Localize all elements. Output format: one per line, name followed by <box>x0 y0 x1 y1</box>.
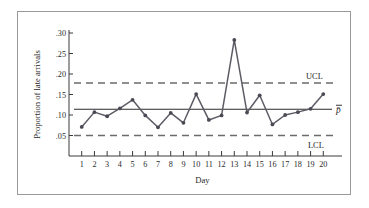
x-tick-label: 10 <box>192 160 200 169</box>
data-point <box>271 123 275 127</box>
data-point <box>207 118 211 122</box>
data-point <box>258 93 262 97</box>
x-tick-label: 17 <box>281 160 289 169</box>
control-chart: UCL p̄ LCL .05.10.15.20.25.30 1234567891… <box>18 12 350 194</box>
data-point <box>93 110 97 114</box>
x-tick-label: 19 <box>306 160 314 169</box>
limit-labels: UCL p̄ LCL <box>306 72 342 149</box>
y-tick-label: .30 <box>56 29 66 38</box>
limit-lines <box>74 83 336 135</box>
x-tick-label: 7 <box>156 160 160 169</box>
x-tick-label: 13 <box>230 160 238 169</box>
lower-control-limit-label: LCL <box>308 141 324 150</box>
data-point <box>309 107 313 111</box>
x-tick-label: 15 <box>256 160 264 169</box>
data-point <box>220 114 224 118</box>
data-point <box>232 38 236 42</box>
data-point <box>156 125 160 129</box>
x-tick-label: 11 <box>205 160 213 169</box>
data-point <box>245 111 249 115</box>
x-axis-title: Day <box>195 175 210 185</box>
x-tick-label: 18 <box>294 160 302 169</box>
x-axis-ticks: 1234567891011121314151617181920 <box>80 151 328 169</box>
x-tick-label: 16 <box>268 160 276 169</box>
x-tick-label: 14 <box>243 160 251 169</box>
x-tick-label: 20 <box>319 160 327 169</box>
x-tick-label: 9 <box>181 160 185 169</box>
x-tick-label: 8 <box>169 160 173 169</box>
data-point <box>321 92 325 96</box>
y-tick-label: .05 <box>56 132 66 141</box>
x-tick-label: 4 <box>118 160 122 169</box>
y-axis-ticks: .05.10.15.20.25.30 <box>56 29 73 141</box>
x-tick-label: 12 <box>217 160 225 169</box>
data-point <box>194 92 198 96</box>
data-point <box>80 125 84 129</box>
data-point <box>118 107 122 111</box>
x-tick-label: 1 <box>80 160 84 169</box>
data-point <box>169 111 173 115</box>
data-point <box>143 114 147 118</box>
y-tick-label: .20 <box>56 70 66 79</box>
y-tick-label: .25 <box>56 50 66 59</box>
figure-frame: UCL p̄ LCL .05.10.15.20.25.30 1234567891… <box>17 11 351 195</box>
y-axis-title: Proportion of late arrivals <box>32 50 42 139</box>
y-tick-label: .10 <box>56 111 66 120</box>
x-tick-label: 6 <box>143 160 147 169</box>
data-point <box>131 98 135 102</box>
x-tick-label: 2 <box>92 160 96 169</box>
center-line-label: p̄ <box>335 105 341 115</box>
x-tick-label: 5 <box>131 160 135 169</box>
upper-control-limit-label: UCL <box>306 72 323 81</box>
data-point <box>182 121 186 125</box>
y-tick-label: .15 <box>56 91 66 100</box>
data-point <box>105 114 109 118</box>
data-series-line <box>82 40 324 127</box>
x-tick-label: 3 <box>105 160 109 169</box>
data-point <box>283 113 287 117</box>
data-point <box>296 110 300 114</box>
